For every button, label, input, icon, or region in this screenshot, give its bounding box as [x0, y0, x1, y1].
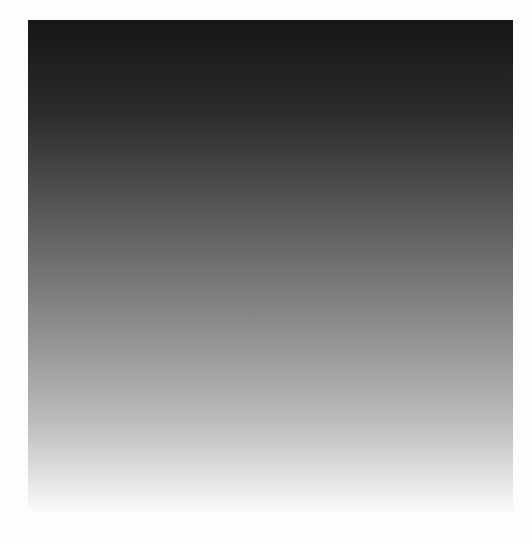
gradient-swatch — [28, 20, 513, 512]
canvas — [0, 0, 532, 544]
